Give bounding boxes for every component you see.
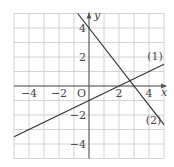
y-tick-label: −4 <box>70 138 86 151</box>
series-label-2: (2) <box>146 114 162 127</box>
x-tick-label: −2 <box>51 87 67 100</box>
x-axis-label: x <box>161 86 168 99</box>
y-tick-label: 2 <box>79 51 86 64</box>
y-axis-label: y <box>93 9 101 22</box>
y-tick-label: 4 <box>79 22 86 35</box>
y-tick-label: −2 <box>70 109 86 122</box>
coordinate-plot: (1)(2) −4−22442−2−4 x y O <box>0 0 174 167</box>
x-tick-label: 2 <box>116 87 123 100</box>
x-tick-label: −4 <box>21 87 37 100</box>
origin-label: O <box>77 87 86 100</box>
series-label-1: (1) <box>147 50 163 63</box>
x-tick-label: 4 <box>146 87 153 100</box>
function-line-2 <box>78 14 164 125</box>
